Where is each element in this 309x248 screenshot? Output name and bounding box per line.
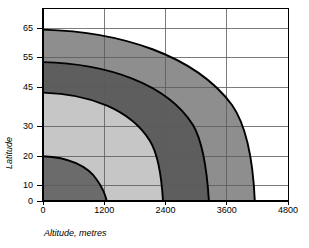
ytick-label-0: 0 [28,197,33,206]
xtick-label-2400: 2400 [149,206,183,215]
ytick-label-45: 45 [23,83,33,92]
xtick-label-0: 0 [31,206,55,215]
ytick-label-30: 30 [23,122,33,131]
ytick-label-20: 20 [23,152,33,161]
ytick-label-55: 55 [23,53,33,62]
xtick-label-3600: 3600 [210,206,244,215]
ytick-label-65: 65 [23,24,33,33]
ytick-label-10: 10 [23,181,33,190]
y-axis-title: Latitude [4,123,14,183]
x-axis-title: Altitude, metres [44,228,107,238]
plot-area-wrapper: 65 55 45 30 20 10 0 0 1200 2400 3600 480… [0,0,309,248]
chart-figure: 65 55 45 30 20 10 0 0 1200 2400 3600 480… [0,0,309,248]
xtick-label-1200: 1200 [87,206,121,215]
y-tick-marks [37,28,43,201]
xtick-label-4800: 4800 [271,206,305,215]
